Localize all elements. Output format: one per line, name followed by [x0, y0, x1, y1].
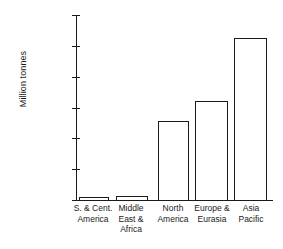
x-label-line: Africa: [110, 224, 152, 235]
bar-2[interactable]: [158, 121, 189, 201]
y-axis-title: Million tonnes: [18, 24, 28, 134]
bar-chart-figure: Million tonnes 01,00,0002,00,0003,00,000…: [0, 0, 283, 249]
x-label-line: Pacific: [229, 214, 273, 225]
x-label-line: Asia: [229, 203, 273, 214]
bar-0[interactable]: [79, 197, 109, 201]
bar-1[interactable]: [116, 196, 148, 201]
x-label-1: MiddleEast &Africa: [110, 203, 152, 235]
x-label-line: Middle: [110, 203, 152, 214]
x-label-4: AsiaPacific: [229, 203, 273, 224]
bar-3[interactable]: [195, 101, 228, 201]
plot-area: 01,00,0002,00,0003,00,0004,00,0005,00,00…: [76, 10, 276, 201]
bars-layer: [77, 10, 276, 201]
x-label-line: East &: [110, 214, 152, 225]
bar-4[interactable]: [234, 38, 267, 201]
x-axis-category-labels: S. & Cent.AmericaMiddleEast &AfricaNorth…: [70, 203, 278, 249]
